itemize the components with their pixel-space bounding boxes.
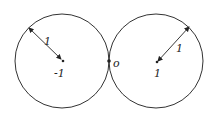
left-radius-label: 1 xyxy=(44,35,51,48)
right-radius-arrow xyxy=(158,27,189,61)
left-center-dot xyxy=(62,60,65,63)
two-tangent-circles-diagram: 1 -1 1 1 o xyxy=(0,0,215,120)
tangent-point xyxy=(107,59,111,63)
right-radius-label: 1 xyxy=(176,42,183,55)
right-center-label: 1 xyxy=(154,67,161,80)
tangent-label: o xyxy=(113,57,120,70)
right-circle xyxy=(109,14,203,108)
left-center-label: -1 xyxy=(54,67,65,80)
right-center-dot xyxy=(156,61,159,64)
